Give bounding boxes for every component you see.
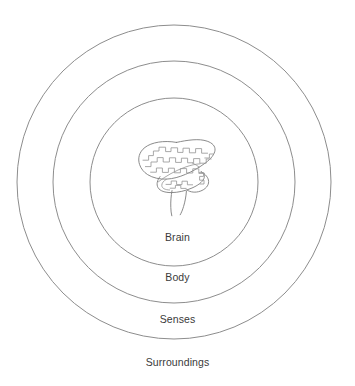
concentric-rings-svg xyxy=(0,0,355,386)
ring-label-brain: Brain xyxy=(0,231,355,243)
ring-label-senses: Senses xyxy=(0,313,355,325)
diagram-canvas: Brain Body Senses Surroundings xyxy=(0,0,355,386)
ring-label-body: Body xyxy=(0,271,355,283)
ring-circle-body xyxy=(53,61,295,303)
ring-circle-senses xyxy=(17,25,331,339)
ring-label-surroundings: Surroundings xyxy=(0,356,355,368)
brain-illustration xyxy=(139,140,215,216)
